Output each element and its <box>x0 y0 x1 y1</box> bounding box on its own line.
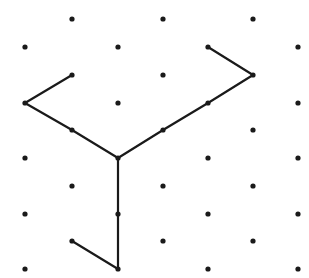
grid-dot <box>160 238 165 243</box>
grid-dot <box>115 155 120 160</box>
grid-dot <box>205 155 210 160</box>
grid-dot <box>115 266 120 271</box>
grid-dot <box>115 211 120 216</box>
grid-dot <box>115 44 120 49</box>
grid-dot <box>22 100 27 105</box>
grid-dot <box>250 72 255 77</box>
grid-dot <box>22 266 27 271</box>
grid-dot <box>115 100 120 105</box>
grid-dot <box>205 211 210 216</box>
background <box>0 0 309 278</box>
dot-grid-diagram <box>0 0 309 278</box>
grid-dot <box>160 127 165 132</box>
grid-dot <box>69 238 74 243</box>
grid-dot <box>69 183 74 188</box>
grid-dot <box>22 44 27 49</box>
grid-dot <box>160 183 165 188</box>
grid-dot <box>69 16 74 21</box>
grid-dot <box>250 183 255 188</box>
grid-dot <box>295 266 300 271</box>
grid-dot <box>160 72 165 77</box>
grid-dot <box>22 211 27 216</box>
grid-dot <box>205 266 210 271</box>
grid-dot <box>250 127 255 132</box>
grid-dot <box>250 16 255 21</box>
grid-dot <box>295 44 300 49</box>
grid-dot <box>69 72 74 77</box>
grid-dot <box>205 44 210 49</box>
grid-dot <box>205 100 210 105</box>
grid-dot <box>22 155 27 160</box>
grid-dot <box>295 155 300 160</box>
grid-dot <box>295 211 300 216</box>
grid-dot <box>250 238 255 243</box>
grid-dot <box>295 100 300 105</box>
grid-dot <box>160 16 165 21</box>
grid-dot <box>69 127 74 132</box>
